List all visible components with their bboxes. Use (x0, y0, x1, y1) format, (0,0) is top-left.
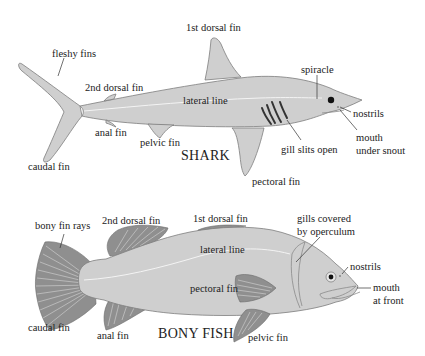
label-shark-first-dorsal-fin: 1st dorsal fin (186, 22, 242, 33)
bony-nostril (339, 275, 341, 277)
shark-first-dorsal-fin (205, 38, 241, 80)
label-shark-pectoral-fin: pectoral fin (252, 176, 301, 187)
label-shark-second-dorsal-fin: 2nd dorsal fin (85, 82, 144, 93)
label-bony-pectoral-fin: pectoral fin (190, 283, 239, 294)
diagram-canvas: 1st dorsal fin fleshy fins 2nd dorsal fi… (0, 0, 425, 356)
label-shark-nostrils: nostrils (353, 108, 384, 119)
label-shark-gill-slits: gill slits open (281, 144, 338, 155)
label-bony-anal-fin: anal fin (97, 330, 130, 341)
label-shark-mouth-line2: under snout (356, 145, 405, 156)
fish-comparison-diagram: 1st dorsal fin fleshy fins 2nd dorsal fi… (0, 0, 425, 356)
label-shark-pelvic-fin: pelvic fin (140, 137, 181, 148)
bony-eye (329, 275, 334, 280)
label-bony-lateral-line: lateral line (200, 244, 245, 255)
label-shark-caudal-fin: caudal fin (28, 161, 70, 172)
label-shark-fleshy-fins: fleshy fins (52, 48, 96, 59)
label-bony-nostrils: nostrils (350, 261, 381, 272)
label-bony-caudal-fin: caudal fin (28, 322, 70, 333)
label-shark-mouth-line1: mouth (356, 132, 384, 143)
label-bony-gills-line2: by operculum (297, 226, 355, 237)
label-bony-pelvic-fin: pelvic fin (248, 332, 289, 343)
label-shark-spiracle: spiracle (301, 64, 334, 75)
label-shark-anal-fin: anal fin (95, 127, 128, 138)
shark-title: SHARK (181, 148, 230, 163)
bony-fish-title: BONY FISH (158, 326, 234, 341)
label-bony-mouth-line1: mouth (373, 282, 401, 293)
shark-spiracle (316, 97, 318, 99)
shark-pelvic-fin (148, 124, 174, 138)
label-bony-second-dorsal-fin: 2nd dorsal fin (102, 215, 161, 226)
shark-caudal-fin (19, 63, 82, 162)
shark-pectoral-fin (232, 128, 264, 176)
label-bony-fin-rays: bony fin rays (35, 220, 90, 231)
shark-eye (328, 97, 334, 103)
label-bony-gills-line1: gills covered (297, 213, 352, 224)
label-bony-mouth-line2: at front (373, 295, 404, 306)
label-shark-lateral-line: lateral line (183, 95, 228, 106)
label-bony-first-dorsal-fin: 1st dorsal fin (193, 213, 249, 224)
shark-nostril (337, 106, 339, 108)
